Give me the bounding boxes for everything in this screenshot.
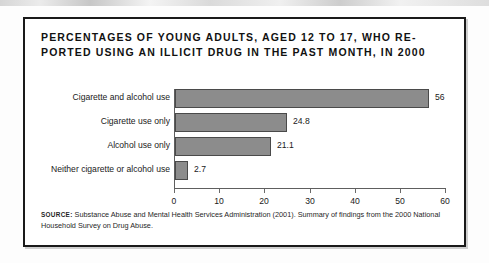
x-axis-tick-label: 60 bbox=[440, 196, 450, 206]
x-axis-tick bbox=[174, 189, 175, 193]
page-canvas: PERCENTAGES OF YOUNG ADULTS, AGED 12 TO … bbox=[0, 0, 489, 263]
chart-title-line-2: PORTED USING AN ILLICIT DRUG IN THE PAST… bbox=[41, 45, 449, 60]
scan-artifact-strip bbox=[0, 0, 489, 6]
chart-title: PERCENTAGES OF YOUNG ADULTS, AGED 12 TO … bbox=[41, 30, 449, 60]
plot-area: 56 24.8 21.1 2.7 bbox=[174, 89, 446, 189]
bar-alcohol-use-only[interactable] bbox=[175, 137, 271, 156]
bar-value-label: 56 bbox=[435, 92, 445, 102]
category-axis-labels: Cigarette and alcohol use Cigarette use … bbox=[25, 89, 170, 189]
x-axis-tick-label: 30 bbox=[305, 196, 315, 206]
x-axis-tick-label: 10 bbox=[214, 196, 224, 206]
bar-chart: Cigarette and alcohol use Cigarette use … bbox=[25, 81, 464, 213]
category-label: Neither cigarette or alcohol use bbox=[51, 164, 170, 174]
bar-cigarette-use-only[interactable] bbox=[175, 113, 287, 132]
category-label: Alcohol use only bbox=[107, 140, 170, 150]
x-axis-tick bbox=[355, 189, 356, 193]
bar-neither-cigarette-or-alcohol-use[interactable] bbox=[175, 161, 188, 180]
x-axis-tick bbox=[445, 189, 446, 193]
x-axis-tick-label: 0 bbox=[172, 196, 177, 206]
figure-frame: PERCENTAGES OF YOUNG ADULTS, AGED 12 TO … bbox=[23, 17, 466, 247]
source-note: source: Substance Abuse and Mental Healt… bbox=[41, 209, 445, 231]
bar-cigarette-and-alcohol-use[interactable] bbox=[175, 89, 429, 108]
x-axis-tick-label: 40 bbox=[350, 196, 360, 206]
x-axis-tick bbox=[219, 189, 220, 193]
chart-title-line-1: PERCENTAGES OF YOUNG ADULTS, AGED 12 TO … bbox=[41, 30, 449, 45]
x-axis-tick bbox=[310, 189, 311, 193]
category-label: Cigarette use only bbox=[101, 116, 170, 126]
bar-value-label: 21.1 bbox=[277, 140, 294, 150]
x-axis-tick bbox=[264, 189, 265, 193]
source-text: Substance Abuse and Mental Health Servic… bbox=[41, 210, 440, 230]
x-axis-tick-label: 20 bbox=[259, 196, 269, 206]
bar-value-label: 2.7 bbox=[194, 164, 206, 174]
bar-value-label: 24.8 bbox=[293, 116, 310, 126]
category-label: Cigarette and alcohol use bbox=[73, 92, 170, 102]
x-axis-tick-label: 50 bbox=[395, 196, 405, 206]
x-axis-tick bbox=[400, 189, 401, 193]
source-kicker: source: bbox=[41, 211, 73, 218]
